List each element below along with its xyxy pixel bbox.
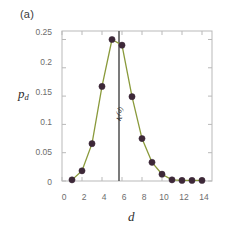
data-point [129,94,135,100]
axes-ticks [62,31,212,181]
data-point [189,177,195,183]
data-point [169,177,175,183]
data-point [99,83,105,89]
data-point [89,141,95,147]
data-point [139,135,145,141]
figure-panel-a: (a) pd d 0.25 0.2 0.15 0.1 0.05 0 0 2 4 … [0,0,233,233]
data-line-series-pd [72,39,202,180]
data-point [159,171,165,177]
data-point [199,177,205,183]
data-point [79,168,85,174]
data-point [149,159,155,165]
data-point [179,177,185,183]
data-point [109,36,115,42]
axes-frame [62,31,212,181]
data-point [119,42,125,48]
data-markers [69,36,205,183]
data-point [69,177,75,183]
